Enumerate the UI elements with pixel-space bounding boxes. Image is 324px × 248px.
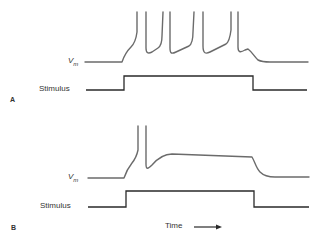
panel-a-vm-trace — [85, 12, 308, 62]
time-arrow-icon — [194, 225, 222, 230]
panel-b-vm-trace — [88, 126, 309, 178]
panel-b-letter: B — [11, 224, 16, 231]
panel-a-vm-label: Vm — [68, 56, 78, 67]
panel-a-stimulus-label: Stimulus — [39, 84, 70, 93]
panel-b-stimulus-label: Stimulus — [40, 201, 71, 210]
panel-b-vm-label: Vm — [68, 172, 78, 183]
diagram-canvas — [0, 0, 324, 248]
panel-a-stimulus-trace — [86, 76, 307, 90]
time-axis-label: Time — [165, 221, 182, 230]
panel-b-stimulus-trace — [88, 191, 309, 207]
panel-a-letter: A — [10, 96, 15, 103]
